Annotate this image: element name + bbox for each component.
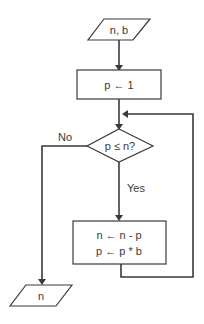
process-line-2: p ← p * b [96, 245, 142, 257]
process-line-1: n ← n - p [96, 229, 141, 241]
flowchart: n, b p ← 1 p ≤ n? No Yes n ← n - p p ← p… [0, 0, 204, 324]
input-label: n, b [110, 24, 128, 36]
arrowhead-icon [38, 279, 46, 285]
no-branch-label: No [58, 131, 72, 143]
decision-label: p ≤ n? [105, 140, 136, 152]
arrowhead-icon [115, 215, 123, 221]
arrowhead-icon [122, 110, 128, 118]
yes-branch-label: Yes [127, 182, 145, 194]
init-label: p ← 1 [104, 79, 133, 91]
process-node [73, 221, 166, 264]
output-label: n [38, 290, 44, 302]
